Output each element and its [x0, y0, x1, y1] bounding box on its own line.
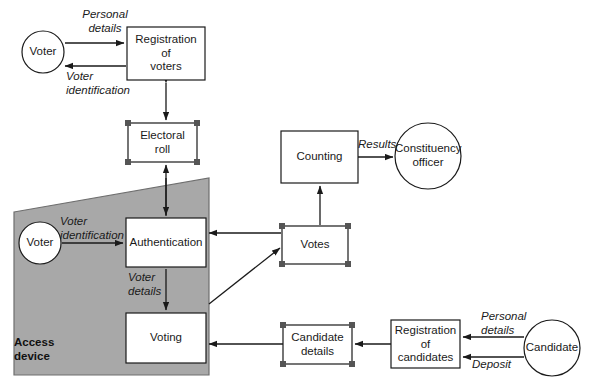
edge-voting-to-votes — [209, 248, 280, 304]
handle-votes-bl[interactable] — [279, 261, 285, 267]
edge-label-candidate-personal-details: Personal details — [481, 310, 539, 337]
handle-candidate-details-tl[interactable] — [280, 322, 286, 328]
access-device-label: Access device — [14, 336, 84, 363]
handle-electoral-roll-tl[interactable] — [125, 120, 131, 126]
handle-electoral-roll-bl[interactable] — [125, 159, 131, 165]
handle-candidate-details-br[interactable] — [349, 361, 355, 367]
node-registration-of-candidates-shape[interactable] — [391, 320, 460, 368]
handle-votes-tl[interactable] — [279, 223, 285, 229]
node-voting-shape[interactable] — [126, 313, 206, 363]
handle-electoral-roll-tr[interactable] — [194, 120, 200, 126]
edge-label-voter-identification-top: Voter identification — [66, 70, 146, 97]
diagram-canvas: Access device Voter Registration of vote… — [0, 0, 592, 389]
handle-votes-br[interactable] — [345, 261, 351, 267]
handle-votes-tr[interactable] — [345, 223, 351, 229]
node-electoral-roll-shape[interactable] — [128, 123, 197, 162]
node-counting-shape[interactable] — [281, 131, 358, 183]
node-constituency-officer-shape[interactable] — [395, 123, 461, 189]
edge-label-personal-details-voter: Personal details — [70, 8, 140, 35]
node-voter-bottom-shape[interactable] — [19, 222, 61, 264]
edge-label-voter-details: Voter details — [128, 271, 188, 298]
edge-label-voter-identification-bottom: Voter identification — [60, 215, 132, 242]
handle-candidate-details-bl[interactable] — [280, 361, 286, 367]
node-candidate-details-shape[interactable] — [283, 325, 352, 364]
handle-electoral-roll-br[interactable] — [194, 159, 200, 165]
edge-label-deposit: Deposit — [472, 358, 530, 372]
handle-candidate-details-tr[interactable] — [349, 322, 355, 328]
node-voter-top-shape[interactable] — [22, 31, 64, 73]
node-votes-shape[interactable] — [282, 226, 348, 264]
edge-label-results: Results — [358, 138, 404, 152]
node-authentication-shape[interactable] — [126, 218, 206, 267]
